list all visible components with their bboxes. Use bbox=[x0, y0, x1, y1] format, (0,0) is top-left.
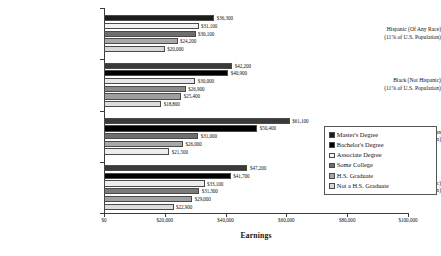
bar bbox=[104, 125, 257, 131]
x-tick-label: $100,000 bbox=[398, 217, 417, 223]
bar-group: $36,300$31,100$30,100$24,200$20,000 bbox=[104, 15, 408, 52]
bar-value-label: $18,800 bbox=[164, 101, 180, 107]
bar bbox=[104, 78, 195, 84]
x-axis-line bbox=[104, 213, 408, 214]
bar bbox=[104, 180, 205, 186]
bar-value-label: $47,200 bbox=[250, 165, 266, 171]
y-tick bbox=[100, 162, 104, 163]
bar-value-label: $29,000 bbox=[195, 196, 211, 202]
bar bbox=[104, 148, 169, 154]
bar-row: $24,200 bbox=[104, 38, 408, 44]
x-axis-title: Earnings bbox=[104, 231, 408, 240]
legend-label: Master's Degree bbox=[337, 132, 378, 138]
bar-value-label: $30,000 bbox=[198, 78, 214, 84]
legend-swatch-icon bbox=[329, 132, 335, 138]
y-tick bbox=[100, 111, 104, 112]
bar-value-label: $50,400 bbox=[260, 125, 276, 131]
bar-row: $61,100 bbox=[104, 118, 408, 124]
bar-group: $42,200$40,900$30,000$26,900$25,400$18,8… bbox=[104, 63, 408, 108]
bar-row: $22,900 bbox=[104, 204, 408, 210]
bar bbox=[104, 204, 174, 210]
x-tick-label: $20,000 bbox=[157, 217, 174, 223]
legend-swatch-icon bbox=[329, 183, 335, 189]
bar-row: $26,900 bbox=[104, 86, 408, 92]
bar bbox=[104, 118, 290, 124]
bar-row: $29,000 bbox=[104, 196, 408, 202]
legend-swatch-icon bbox=[329, 142, 335, 148]
bar-value-label: $22,900 bbox=[176, 204, 192, 210]
legend-item[interactable]: H.S. Graduate bbox=[329, 171, 433, 181]
bar-row: $40,900 bbox=[104, 70, 408, 76]
legend-label: Not a H.S. Graduate bbox=[337, 183, 389, 189]
legend-swatch-icon bbox=[329, 163, 335, 169]
legend-label: Associate Degree bbox=[337, 152, 382, 158]
bar-row: $25,400 bbox=[104, 93, 408, 99]
y-tick bbox=[100, 8, 104, 9]
bar bbox=[104, 173, 231, 179]
bar-value-label: $33,100 bbox=[207, 181, 223, 187]
legend-item[interactable]: Some College bbox=[329, 161, 433, 171]
bar bbox=[104, 188, 199, 194]
bar bbox=[104, 133, 198, 139]
bar-row: $30,100 bbox=[104, 31, 408, 37]
bar bbox=[104, 38, 178, 44]
bar bbox=[104, 70, 228, 76]
bar-value-label: $31,300 bbox=[202, 188, 218, 194]
bar-row: $18,800 bbox=[104, 101, 408, 107]
bar-value-label: $40,900 bbox=[231, 70, 247, 76]
bar-value-label: $31,000 bbox=[201, 133, 217, 139]
bar-value-label: $61,100 bbox=[292, 118, 308, 124]
bar-row: $20,000 bbox=[104, 46, 408, 52]
legend: Master's DegreeBachelor's DegreeAssociat… bbox=[324, 126, 437, 195]
bar-value-label: $26,000 bbox=[186, 141, 202, 147]
bar-value-label: $26,900 bbox=[188, 86, 204, 92]
bar-value-label: $41,700 bbox=[233, 173, 249, 179]
bar-value-label: $25,400 bbox=[184, 93, 200, 99]
bar bbox=[104, 196, 192, 202]
bar bbox=[104, 63, 232, 69]
bar-row: $31,100 bbox=[104, 23, 408, 29]
bar bbox=[104, 46, 165, 52]
bar-value-label: $30,100 bbox=[198, 31, 214, 37]
x-tick-label: $0 bbox=[101, 217, 106, 223]
bar bbox=[104, 93, 181, 99]
legend-item[interactable]: Associate Degree bbox=[329, 150, 433, 160]
x-tick-label: $60,000 bbox=[278, 217, 295, 223]
legend-label: H.S. Graduate bbox=[337, 173, 373, 179]
legend-label: Bachelor's Degree bbox=[337, 142, 384, 148]
bar bbox=[104, 31, 196, 37]
legend-label: Some College bbox=[337, 162, 373, 168]
bar bbox=[104, 165, 247, 171]
earnings-by-education-chart: Hispanic (Of Any Race)(11% of U.S. Popul… bbox=[0, 0, 441, 256]
bar-value-label: $31,100 bbox=[201, 23, 217, 29]
bar-row: $36,300 bbox=[104, 15, 408, 21]
bar bbox=[104, 86, 186, 92]
bar bbox=[104, 23, 199, 29]
legend-item[interactable]: Bachelor's Degree bbox=[329, 140, 433, 150]
legend-swatch-icon bbox=[329, 153, 335, 159]
bar bbox=[104, 141, 183, 147]
legend-item[interactable]: Not a H.S. Graduate bbox=[329, 181, 433, 191]
y-tick bbox=[100, 59, 104, 60]
x-tick-label: $80,000 bbox=[339, 217, 356, 223]
bar bbox=[104, 101, 161, 107]
x-tick-label: $40,000 bbox=[217, 217, 234, 223]
bar-value-label: $24,200 bbox=[180, 38, 196, 44]
legend-item[interactable]: Master's Degree bbox=[329, 130, 433, 140]
bar-value-label: $36,300 bbox=[217, 15, 233, 21]
legend-swatch-icon bbox=[329, 173, 335, 179]
bar-value-label: $42,200 bbox=[235, 63, 251, 69]
bar bbox=[104, 15, 214, 21]
bar-value-label: $20,000 bbox=[167, 46, 183, 52]
bar-value-label: $21,500 bbox=[172, 149, 188, 155]
bar-row: $30,000 bbox=[104, 78, 408, 84]
bar-row: $42,200 bbox=[104, 63, 408, 69]
